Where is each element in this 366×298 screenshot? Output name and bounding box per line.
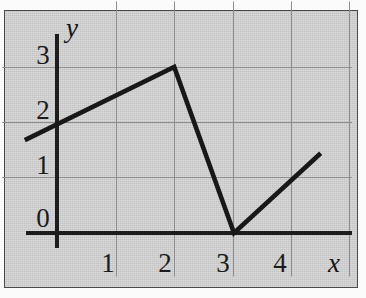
axes-lines: [26, 34, 352, 248]
y-tick-label-2: 2: [30, 97, 56, 124]
figure-root: 0 1 2 3 1 2 3 4 y x: [0, 0, 366, 298]
x-axis-label: x: [328, 250, 340, 277]
x-tick-label-2: 2: [152, 250, 178, 277]
data-series-piecewise-linear: [25, 67, 321, 233]
x-tick-label-4: 4: [267, 250, 293, 277]
x-tick-label-1: 1: [95, 250, 121, 277]
y-tick-label-3: 3: [30, 42, 56, 69]
y-tick-label-0: 0: [30, 205, 56, 232]
x-tick-label-3: 3: [210, 250, 236, 277]
y-axis-label: y: [66, 15, 78, 42]
data-polyline: [25, 67, 321, 233]
y-tick-label-1: 1: [30, 152, 56, 179]
